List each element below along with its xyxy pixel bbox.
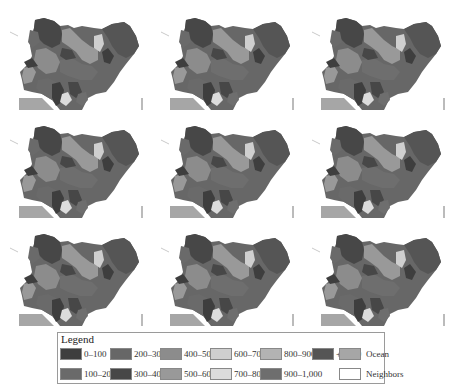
map-grid xyxy=(0,0,458,322)
legend-swatch xyxy=(260,348,282,360)
choropleth-map-panel xyxy=(153,110,303,218)
legend-swatch xyxy=(110,368,132,380)
legend-item-400-500: 400–500 xyxy=(160,347,216,361)
choropleth-map-panel xyxy=(304,218,454,326)
legend-swatch xyxy=(260,368,282,380)
legend-swatch xyxy=(60,368,82,380)
legend-swatch xyxy=(339,368,361,380)
legend-item-600-700: 600–700 xyxy=(210,347,266,361)
choropleth-map-panel xyxy=(2,218,152,326)
legend-swatch xyxy=(60,348,82,360)
legend-title: Legend xyxy=(61,333,94,345)
choropleth-map-panel xyxy=(304,110,454,218)
legend: Legend 0–100 100–200 200–300 300–400 400… xyxy=(57,332,385,384)
legend-item-100-200: 100–200 xyxy=(60,367,116,381)
legend-item-800-900: 800–900 xyxy=(260,347,316,361)
legend-item-900-1000: 900–1,000 xyxy=(260,367,322,381)
choropleth-map-panel xyxy=(304,2,454,110)
legend-label: Neighbors xyxy=(366,369,404,379)
legend-item-300-400: 300–400 xyxy=(110,367,166,381)
legend-swatch xyxy=(339,348,361,360)
legend-item-500-600: 500–600 xyxy=(160,367,216,381)
legend-label: 800–900 xyxy=(284,349,316,359)
legend-label: Ocean xyxy=(366,349,389,359)
choropleth-map-panel xyxy=(153,2,303,110)
choropleth-map-panel xyxy=(2,2,152,110)
legend-swatch xyxy=(210,348,232,360)
legend-swatch xyxy=(160,348,182,360)
legend-swatch xyxy=(110,348,132,360)
legend-item-700-800: 700–800 xyxy=(210,367,266,381)
legend-item-200-300: 200–300 xyxy=(110,347,166,361)
legend-label: 900–1,000 xyxy=(284,369,322,379)
legend-item-0-100: 0–100 xyxy=(60,347,107,361)
choropleth-map-panel xyxy=(153,218,303,326)
legend-swatch xyxy=(312,348,334,360)
legend-label: 0–100 xyxy=(84,349,107,359)
choropleth-map-panel xyxy=(2,110,152,218)
legend-item-neighbors: Neighbors xyxy=(339,367,404,381)
legend-swatch xyxy=(160,368,182,380)
legend-item-ocean: Ocean xyxy=(339,347,389,361)
legend-swatch xyxy=(210,368,232,380)
